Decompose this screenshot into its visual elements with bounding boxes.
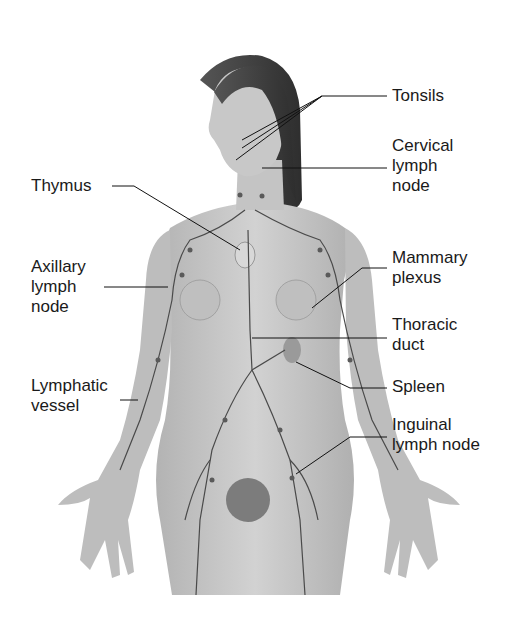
label-text: node — [31, 297, 86, 317]
label-text: duct — [392, 335, 457, 355]
label-text: Cervical — [392, 136, 453, 156]
label-text: vessel — [31, 396, 108, 416]
label-mammary-plexus: Mammary plexus — [392, 248, 468, 288]
label-text: Mammary — [392, 248, 468, 268]
label-text: node — [392, 176, 453, 196]
label-text: Thymus — [31, 176, 91, 196]
label-inguinal-lymph-node: Inguinal lymph node — [392, 415, 480, 455]
label-text: Spleen — [392, 377, 445, 397]
label-thoracic-duct: Thoracic duct — [392, 315, 457, 355]
thymus — [235, 242, 255, 268]
label-tonsils: Tonsils — [392, 86, 444, 106]
label-text: lymph — [392, 156, 453, 176]
label-text: Axillary — [31, 257, 86, 277]
label-cervical-lymph-node: Cervical lymph node — [392, 136, 453, 196]
label-axillary-lymph-node: Axillary lymph node — [31, 257, 86, 317]
label-text: lymph — [31, 277, 86, 297]
label-text: Inguinal — [392, 415, 480, 435]
spleen — [283, 337, 301, 363]
label-text: Tonsils — [392, 86, 444, 106]
label-text: Lymphatic — [31, 376, 108, 396]
label-spleen: Spleen — [392, 377, 445, 397]
label-thymus: Thymus — [31, 176, 91, 196]
label-text: Thoracic — [392, 315, 457, 335]
label-text: plexus — [392, 268, 468, 288]
torso — [156, 204, 354, 595]
label-lymphatic-vessel: Lymphatic vessel — [31, 376, 108, 416]
label-text: lymph node — [392, 435, 480, 455]
